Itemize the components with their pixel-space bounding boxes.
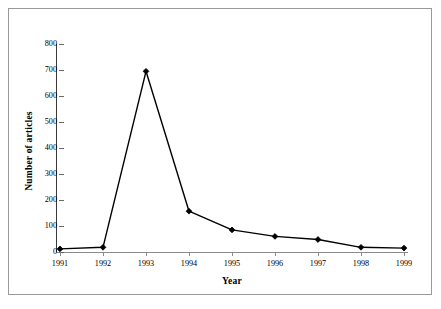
data-point	[143, 68, 149, 74]
data-point	[315, 237, 321, 243]
data-point	[229, 227, 235, 233]
data-point	[186, 208, 192, 214]
x-tick-label: 1995	[210, 259, 254, 268]
y-tick-label: 100	[25, 220, 57, 232]
y-tick-label: 400	[25, 142, 57, 154]
x-tick-label: 1999	[382, 259, 426, 268]
y-tick-label: 600	[25, 90, 57, 102]
data-point	[100, 244, 106, 250]
x-tick-label: 1996	[253, 259, 297, 268]
y-tick-label: 700	[25, 64, 57, 76]
x-tick-label: 1997	[296, 259, 340, 268]
y-tick-label: 800	[25, 38, 57, 50]
y-tick-label: 500	[25, 116, 57, 128]
x-tick-label: 1998	[339, 259, 383, 268]
data-point	[272, 234, 278, 240]
data-point	[401, 245, 407, 251]
data-point	[358, 244, 364, 250]
y-tick-label: 200	[25, 194, 57, 206]
x-tick-label: 1991	[38, 259, 82, 268]
y-tick-label: 0	[25, 246, 57, 258]
x-tick-label: 1993	[124, 259, 168, 268]
chart-figure: Number of articles Year 0100200300400500…	[0, 0, 441, 309]
series-markers	[57, 68, 407, 251]
x-axis-title: Year	[52, 276, 412, 286]
data-point	[57, 246, 63, 252]
x-tick-label: 1994	[167, 259, 211, 268]
series-polyline	[60, 71, 404, 249]
plot-area: 0100200300400500600700800 19911992199319…	[56, 40, 412, 256]
line-series	[56, 40, 412, 256]
y-tick-label: 300	[25, 168, 57, 180]
x-tick-label: 1992	[81, 259, 125, 268]
